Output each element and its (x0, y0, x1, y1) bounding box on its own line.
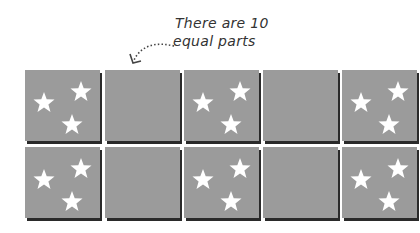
tile-with-stars (342, 147, 417, 218)
tile-with-stars (25, 70, 100, 141)
annotation-line-2: equal parts (173, 32, 269, 50)
tile-plain (263, 147, 338, 218)
tile-with-stars (342, 70, 417, 141)
dotted-arrow-icon (128, 38, 178, 68)
stars-icon (342, 70, 417, 141)
stars-icon (184, 147, 259, 218)
tile-with-stars (184, 70, 259, 141)
tile-plain (263, 70, 338, 141)
annotation-label: There are 10 equal parts (173, 14, 269, 50)
tile-with-stars (184, 147, 259, 218)
tile-with-stars (25, 147, 100, 218)
stars-icon (25, 147, 100, 218)
stars-icon (25, 70, 100, 141)
stars-icon (342, 147, 417, 218)
annotation-line-1: There are 10 (175, 14, 269, 32)
stars-icon (184, 70, 259, 141)
tile-plain (105, 70, 180, 141)
tile-plain (105, 147, 180, 218)
